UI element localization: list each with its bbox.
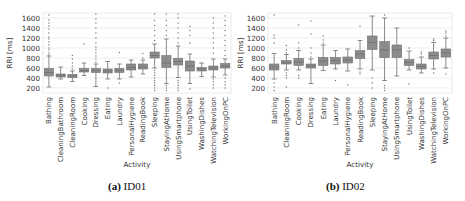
- boxplot-chart-id02: 2004006008001000120014001600RRI [ms]Bath…: [235, 0, 465, 175]
- outlier: [445, 73, 446, 74]
- outlier: [166, 20, 167, 21]
- outlier: [225, 55, 226, 56]
- outlier: [384, 90, 385, 91]
- outlier: [154, 85, 155, 86]
- outlier: [372, 87, 373, 88]
- outlier: [433, 40, 434, 41]
- y-axis-label: RRI [ms]: [236, 37, 245, 68]
- outlier: [189, 42, 190, 43]
- outlier: [347, 84, 348, 85]
- x-tick-label: Dressing: [92, 97, 100, 128]
- outlier: [213, 81, 214, 82]
- x-tick-label: ReadingBook: [139, 96, 147, 143]
- caption-id01: (a) ID01: [108, 180, 146, 192]
- outlier: [72, 65, 73, 66]
- outlier: [274, 37, 275, 38]
- y-tick-label: 1400: [22, 24, 41, 33]
- outlier: [119, 52, 120, 53]
- x-axis-label: Activity: [124, 160, 152, 169]
- y-axis-label: RRI [ms]: [5, 37, 14, 68]
- outlier: [48, 38, 49, 39]
- y-tick-label: 1600: [247, 14, 266, 23]
- y-tick-label: 1600: [22, 14, 41, 23]
- x-tick-label: UsingSmartphone: [393, 97, 401, 160]
- outlier: [310, 20, 311, 21]
- y-tick-label: 1200: [247, 34, 266, 43]
- outlier: [286, 52, 287, 53]
- outlier: [225, 87, 226, 88]
- y-tick-label: 200: [26, 84, 40, 93]
- outlier: [286, 86, 287, 87]
- x-tick-label: CleaningRoom: [283, 97, 291, 148]
- outlier: [274, 14, 275, 15]
- outlier: [213, 78, 214, 79]
- outlier: [166, 13, 167, 14]
- outlier: [225, 40, 226, 41]
- y-tick-label: 1000: [247, 44, 266, 53]
- x-tick-label: Cooking: [295, 97, 303, 125]
- outlier: [95, 58, 96, 59]
- outlier: [48, 19, 49, 20]
- outlier: [178, 27, 179, 28]
- outlier: [213, 47, 214, 48]
- x-tick-label: Laundry: [332, 97, 340, 126]
- outlier: [225, 45, 226, 46]
- outlier: [166, 35, 167, 36]
- outlier: [166, 90, 167, 91]
- outlier: [95, 61, 96, 62]
- outlier: [213, 52, 214, 53]
- outlier: [154, 77, 155, 78]
- x-tick-label: ReadingBook: [357, 96, 365, 143]
- outlier: [213, 37, 214, 38]
- x-tick-label: CleaningRoom: [69, 97, 77, 148]
- outlier: [72, 62, 73, 63]
- outlier: [189, 26, 190, 27]
- outlier: [95, 52, 96, 53]
- outlier: [154, 35, 155, 36]
- chart-panel-id01: 2004006008001000120014001600RRI [ms]Bath…: [0, 0, 235, 201]
- caption-label-b: (b): [326, 180, 339, 192]
- outlier: [48, 32, 49, 33]
- outlier: [95, 42, 96, 43]
- x-tick-label: WorkingOnPC: [222, 97, 230, 145]
- outlier: [286, 75, 287, 76]
- outlier: [154, 40, 155, 41]
- outlier: [48, 36, 49, 37]
- x-tick-label: Cooking: [81, 97, 89, 125]
- box-iqr: [127, 64, 136, 70]
- outlier: [274, 82, 275, 83]
- outlier: [72, 55, 73, 56]
- outlier: [154, 30, 155, 31]
- outlier: [213, 84, 214, 85]
- outlier: [178, 13, 179, 14]
- outlier: [48, 47, 49, 48]
- outlier: [323, 39, 324, 40]
- caption-id02: (b) ID02: [326, 180, 365, 192]
- outlier: [310, 52, 311, 53]
- outlier: [225, 77, 226, 78]
- outlier: [142, 53, 143, 54]
- outlier: [384, 14, 385, 15]
- outlier: [48, 49, 49, 50]
- x-tick-label: Bathing: [271, 97, 279, 124]
- box-iqr: [162, 56, 171, 68]
- outlier: [119, 82, 120, 83]
- outlier: [189, 88, 190, 89]
- y-tick-label: 1400: [247, 24, 266, 33]
- outlier: [154, 80, 155, 81]
- box-iqr: [150, 52, 159, 58]
- outlier: [225, 84, 226, 85]
- outlier: [213, 87, 214, 88]
- x-tick-label: Laundry: [116, 97, 124, 126]
- outlier: [384, 87, 385, 88]
- x-tick-label: WashingDishes: [418, 97, 426, 150]
- outlier: [154, 20, 155, 21]
- x-tick-label: Eating: [104, 97, 112, 119]
- box-iqr: [392, 45, 402, 58]
- chart-panel-id02: 2004006008001000120014001600RRI [ms]Bath…: [235, 0, 465, 201]
- outlier: [154, 70, 155, 71]
- outlier: [286, 49, 287, 50]
- caption-text-id02: ID02: [342, 180, 365, 192]
- outlier: [95, 32, 96, 33]
- x-tick-label: UsingToilet: [406, 97, 414, 135]
